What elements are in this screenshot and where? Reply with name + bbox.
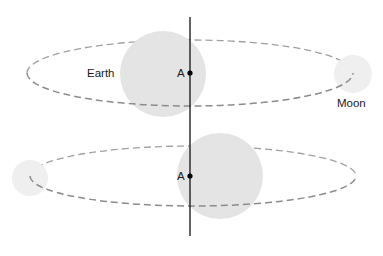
point-a-label-bottom: A <box>177 170 185 182</box>
point-a-label-top: A <box>177 67 185 79</box>
point-a-top <box>187 70 192 75</box>
earth-label: Earth <box>87 67 115 79</box>
moon-label: Moon <box>337 97 366 109</box>
top-panel: Earth Moon A <box>27 31 372 117</box>
point-a-bottom <box>187 173 192 178</box>
earth-moon-barycenter-diagram: Earth Moon A A <box>0 0 383 256</box>
bottom-panel: A <box>12 133 356 219</box>
